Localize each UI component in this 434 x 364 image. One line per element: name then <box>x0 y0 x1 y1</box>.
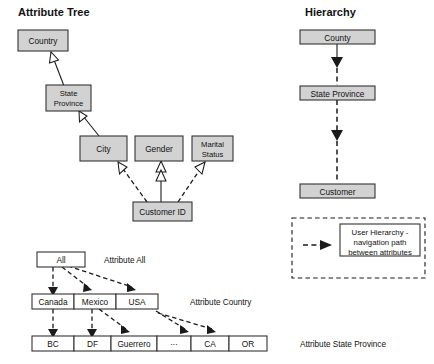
marital-status-label-line1: Marital <box>201 140 224 149</box>
member-edges-usa-to-state <box>156 311 216 334</box>
member-node-ellipsis[interactable]: ... <box>157 336 191 351</box>
member-level-attribute-country: Canada Mexico USA Attribute Country <box>32 294 252 309</box>
state-province-label-line1: State <box>60 89 78 98</box>
edge-usa-to-or <box>158 313 212 329</box>
legend-box: User Hierarchy - navigation path between… <box>292 218 425 278</box>
hierarchy-section: Hierarchy County State Province Customer <box>300 6 375 198</box>
arrowhead-customer-id-to-city <box>118 162 127 174</box>
member-node-guerrero[interactable]: Guerrero <box>111 336 157 351</box>
customer-id-label: Customer ID <box>139 207 186 217</box>
member-edges-country-to-state <box>48 309 130 338</box>
legend-text-line3: between attributes <box>348 248 412 257</box>
county-label: County <box>324 33 351 43</box>
member-node-all[interactable]: All <box>37 252 85 267</box>
guerrero-label: Guerrero <box>117 339 151 349</box>
edge-all-to-usa <box>68 266 132 287</box>
member-level-attribute-state-province: BC DF Guerrero ... CA OR Attribu <box>32 336 386 351</box>
arrowhead-all-to-usa <box>127 283 136 292</box>
arrowhead-usa-to-ca <box>180 325 189 334</box>
annotation-attribute-country: Attribute Country <box>190 298 252 307</box>
arrowhead-customer-id-to-marital-status <box>195 162 205 174</box>
attribute-tree-section: Attribute Tree Country <box>18 6 233 221</box>
hierarchy-edge-state-province-to-customer <box>331 100 343 183</box>
member-node-bc[interactable]: BC <box>32 336 74 351</box>
attribute-node-gender[interactable]: Gender <box>135 136 183 161</box>
attribute-node-city[interactable]: City <box>80 136 127 161</box>
hierarchy-state-province-label: State Province <box>311 89 365 99</box>
attribute-node-state-province[interactable]: State Province <box>46 85 91 111</box>
member-level-attribute-all: All Attribute All <box>37 252 146 267</box>
member-edges-all-to-country <box>48 266 136 296</box>
member-node-usa[interactable]: USA <box>116 294 158 309</box>
member-node-or[interactable]: OR <box>229 336 267 351</box>
member-node-canada[interactable]: Canada <box>32 294 74 309</box>
state-province-label-line2: Province <box>54 99 84 108</box>
city-label: City <box>96 144 111 154</box>
legend-sample-arrow <box>303 240 332 250</box>
attribute-node-customer-id[interactable]: Customer ID <box>133 202 192 221</box>
ca-label: CA <box>204 339 216 349</box>
customer-label: Customer <box>320 187 356 197</box>
attribute-tree-title: Attribute Tree <box>18 6 90 18</box>
hierarchy-node-county[interactable]: County <box>300 30 375 44</box>
legend-arrowhead-icon <box>320 240 332 250</box>
member-node-mexico[interactable]: Mexico <box>74 294 116 309</box>
ellipsis-label: ... <box>171 337 178 347</box>
arrowhead-mexico-to-guerrero <box>121 325 130 334</box>
gender-label: Gender <box>145 144 173 154</box>
marital-status-label-line2: Status <box>202 150 224 159</box>
hierarchy-node-state-province[interactable]: State Province <box>300 86 375 100</box>
attribute-node-marital-status[interactable]: Marital Status <box>192 136 233 161</box>
arrowhead-county-to-state-province <box>331 57 343 68</box>
all-label: All <box>56 255 65 265</box>
usa-label: USA <box>128 297 146 307</box>
annotation-attribute-all: Attribute All <box>104 256 146 265</box>
hierarchy-edge-county-to-state-province <box>331 44 343 85</box>
attribute-node-country[interactable]: Country <box>18 30 68 51</box>
hierarchy-node-customer[interactable]: Customer <box>300 184 375 198</box>
member-node-ca[interactable]: CA <box>191 336 229 351</box>
arrowhead-state-province-to-country <box>50 52 59 63</box>
legend-text-line1: User Hierarchy - <box>352 228 409 237</box>
hierarchy-title: Hierarchy <box>305 6 357 18</box>
arrowhead-usa-to-or <box>207 325 216 334</box>
member-node-df[interactable]: DF <box>74 336 111 351</box>
annotation-attribute-state-province: Attribute State Province <box>300 340 386 349</box>
member-tree-section: All Attribute All Canada Mexico USA Attr… <box>32 252 386 351</box>
arrowhead-state-province-to-customer <box>331 130 343 141</box>
bc-label: BC <box>47 339 59 349</box>
attribute-tree-edges <box>50 52 206 202</box>
mexico-label: Mexico <box>82 297 109 307</box>
canada-label: Canada <box>38 297 67 307</box>
arrowhead-all-to-mexico <box>83 283 92 292</box>
df-label: DF <box>87 339 98 349</box>
uml-attribute-hierarchy-diagram: Attribute Tree Country <box>0 0 434 364</box>
country-label: Country <box>28 36 58 46</box>
legend-text-line2: navigation path <box>354 238 407 247</box>
or-label: OR <box>242 339 254 349</box>
